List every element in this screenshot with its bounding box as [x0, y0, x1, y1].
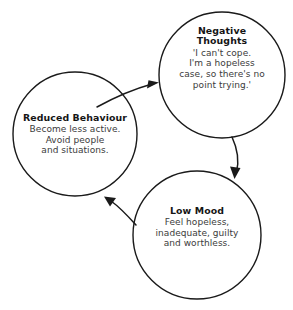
cycle-diagram: Negative Thoughts 'I can't cope. I'm a h… [0, 0, 293, 310]
node-label-reduced-behaviour: Reduced Behaviour Become less active. Av… [13, 112, 137, 156]
node-title-reduced-behaviour: Reduced Behaviour [13, 112, 137, 123]
node-body-low-mood: Feel hopeless, inadequate, guilty and wo… [134, 217, 260, 249]
node-body-negative-thoughts: 'I can't cope. I'm a hopeless case, so t… [160, 48, 284, 90]
node-label-negative-thoughts: Negative Thoughts 'I can't cope. I'm a h… [160, 26, 284, 90]
node-title-low-mood: Low Mood [134, 205, 260, 216]
node-body-reduced-behaviour: Become less active. Avoid people and sit… [13, 124, 137, 156]
node-label-low-mood: Low Mood Feel hopeless, inadequate, guil… [134, 205, 260, 249]
arrow-head-icon [104, 197, 116, 207]
arrow-negative-thoughts-to-low-mood [230, 137, 241, 179]
arrow-low-mood-to-reduced-behaviour [104, 197, 136, 226]
arrow-head-icon [147, 80, 159, 88]
arrow-head-icon [230, 167, 241, 180]
node-title-negative-thoughts: Negative Thoughts [160, 26, 284, 47]
